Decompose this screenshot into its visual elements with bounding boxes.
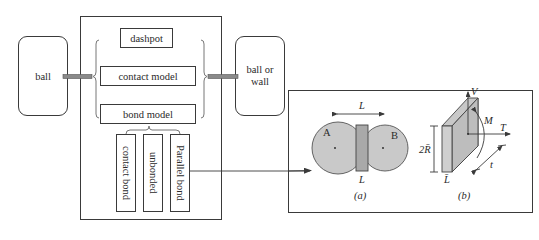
subfigure-a-drawing [288,114,408,174]
tension-label: T [500,122,506,133]
left-connector [63,75,92,79]
right-connector [208,75,238,79]
length-top-label: L [359,100,365,111]
ball-b-label: B [391,130,398,141]
caption-b: (b) [458,190,470,201]
extent-label: t [490,159,493,170]
bond-type-brace [126,126,180,134]
ball-b [362,125,408,171]
thickness-label: L̄ [444,174,450,185]
right-brace [201,40,207,118]
length-bottom-label: L [359,174,365,185]
ball-a-label: A [323,127,331,138]
moment-label: M [484,115,493,126]
shear-force-label: V [471,86,477,97]
subfigure-b-drawing [430,92,510,172]
left-brace [93,40,99,118]
parallel-bond-bar [356,125,368,171]
height-label: 2R̄ [419,144,431,155]
caption-a: (a) [354,190,366,201]
